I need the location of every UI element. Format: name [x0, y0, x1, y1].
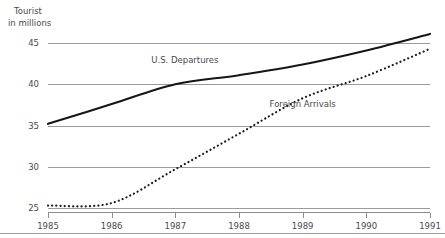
y-tick-label-40: 40	[28, 79, 39, 89]
series-label-u-s-departures: U.S. Departures	[151, 55, 219, 65]
tourist-line-chart: Tourist in millions 2530354045 198519861…	[0, 0, 445, 238]
x-tick-label-1985: 1985	[37, 221, 59, 231]
x-tick-label-1987: 1987	[165, 221, 187, 231]
gridlines	[48, 44, 430, 209]
x-tick-label-1990: 1990	[356, 221, 378, 231]
chart-title: Tourist in millions	[8, 6, 52, 28]
y-axis-tick-labels: 2530354045	[28, 38, 39, 213]
x-tick-label-1988: 1988	[228, 221, 250, 231]
x-axis	[48, 213, 431, 218]
chart-canvas: Tourist in millions 2530354045 198519861…	[0, 0, 445, 238]
x-axis-tick-labels: 1985198619871988198919901991	[37, 221, 441, 231]
y-tick-label-25: 25	[28, 203, 39, 213]
x-tick-label-1986: 1986	[101, 221, 123, 231]
chart-title-line-2: in millions	[8, 18, 52, 28]
x-tick-label-1989: 1989	[292, 221, 314, 231]
data-series	[48, 34, 430, 207]
series-line-u-s-departures	[48, 34, 430, 124]
y-tick-label-35: 35	[28, 121, 39, 131]
series-line-foreign-arrivals	[48, 49, 430, 207]
x-tick-label-1991: 1991	[419, 221, 441, 231]
y-tick-label-45: 45	[28, 38, 39, 48]
series-label-foreign-arrivals: Foreign Arrivals	[270, 99, 337, 109]
y-tick-label-30: 30	[28, 162, 39, 172]
chart-title-line-1: Tourist	[13, 6, 43, 16]
